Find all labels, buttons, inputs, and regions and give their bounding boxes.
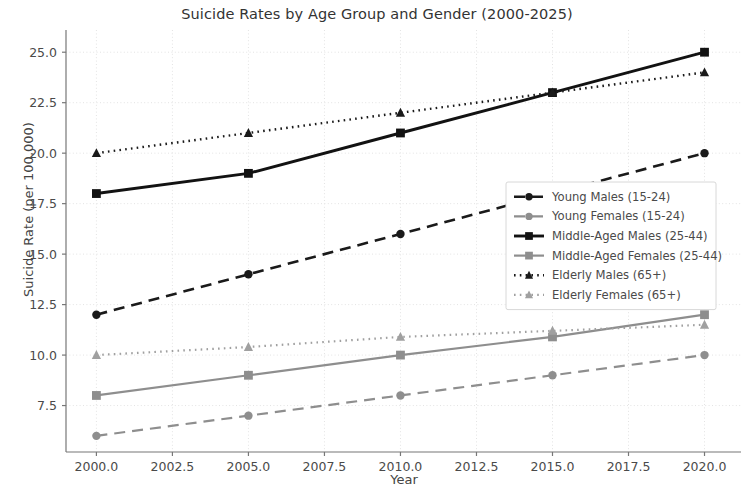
svg-text:22.5: 22.5 bbox=[29, 95, 57, 110]
legend-label: Middle-Aged Males (25-44) bbox=[552, 229, 708, 243]
chart-legend[interactable]: Young Males (15-24)Young Females (15-24)… bbox=[506, 182, 722, 310]
legend-label: Young Males (15-24) bbox=[551, 190, 670, 204]
svg-text:2000.0: 2000.0 bbox=[75, 459, 119, 474]
svg-text:2005.0: 2005.0 bbox=[227, 459, 271, 474]
svg-text:12.5: 12.5 bbox=[29, 297, 57, 312]
svg-text:2007.5: 2007.5 bbox=[303, 459, 347, 474]
svg-text:25.0: 25.0 bbox=[29, 45, 57, 60]
legend-label: Young Females (15-24) bbox=[551, 209, 685, 223]
svg-text:20.0: 20.0 bbox=[29, 146, 57, 161]
series-1 bbox=[92, 351, 709, 440]
svg-text:2020.0: 2020.0 bbox=[683, 459, 727, 474]
svg-text:2002.5: 2002.5 bbox=[151, 459, 195, 474]
svg-text:2015.0: 2015.0 bbox=[531, 459, 575, 474]
legend-label: Middle-Aged Females (25-44) bbox=[552, 249, 722, 263]
svg-text:2012.5: 2012.5 bbox=[455, 459, 499, 474]
svg-text:7.5: 7.5 bbox=[37, 398, 57, 413]
legend-label: Elderly Males (65+) bbox=[552, 268, 666, 282]
chart-figure: Suicide Rates by Age Group and Gender (2… bbox=[0, 0, 754, 495]
series-4 bbox=[92, 67, 709, 157]
legend-label: Elderly Females (65+) bbox=[552, 288, 681, 302]
series-2 bbox=[92, 48, 709, 198]
svg-text:2017.5: 2017.5 bbox=[607, 459, 651, 474]
svg-text:10.0: 10.0 bbox=[29, 348, 57, 363]
svg-text:15.0: 15.0 bbox=[29, 247, 57, 262]
svg-text:17.5: 17.5 bbox=[29, 196, 57, 211]
plot-area: 7.510.012.515.017.520.022.525.02000.0200… bbox=[0, 0, 754, 495]
series-3 bbox=[92, 310, 709, 400]
svg-text:2010.0: 2010.0 bbox=[379, 459, 423, 474]
